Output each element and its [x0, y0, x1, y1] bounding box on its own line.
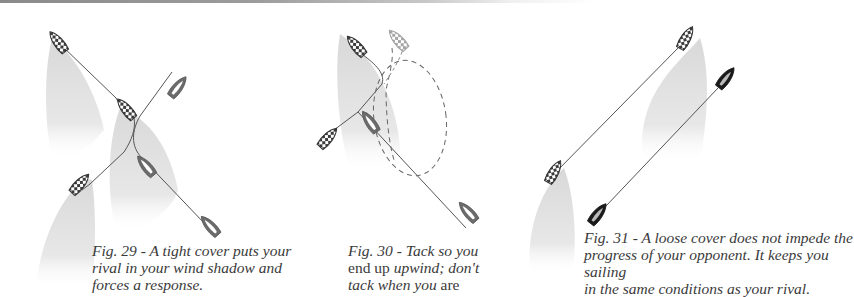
caption-line: progress of your opponent. It keeps you … [584, 246, 854, 280]
wind-shadow-shape [36, 178, 95, 289]
caption-line: rival in your wind shadow and [92, 259, 322, 276]
wind-shadow-shape [46, 38, 104, 160]
caption-italic-text: tack when you [348, 276, 437, 293]
figure-29-caption: Fig. 29 - A tight cover puts your rival … [92, 242, 322, 293]
figure-31-caption: Fig. 31 - A loose cover does not impede … [584, 229, 854, 297]
caption-italic-text: upwind; don't [394, 259, 480, 276]
caption-line: Fig. 29 - A tight cover puts your [92, 242, 322, 259]
caption-line: in the same conditions as your rival. [584, 280, 854, 297]
caption-upright-text: end up [348, 259, 394, 276]
grey-boat-icon [198, 213, 222, 238]
caption-upright-text: are [437, 276, 460, 293]
figure-30-caption: Fig. 30 - Tack so you end up upwind; don… [348, 242, 518, 293]
caption-line: forces a response. [92, 276, 322, 293]
grey-boat-icon [167, 74, 190, 100]
checkered-boat-icon [386, 27, 410, 52]
checkered-boat-icon [316, 125, 340, 150]
caption-line: Fig. 30 - Tack so you [348, 242, 518, 259]
wind-shadow-shape [642, 38, 707, 163]
figure-30 [316, 27, 479, 228]
black-boat-icon [715, 65, 738, 91]
caption-line: end up upwind; don't [348, 259, 518, 276]
black-boat-icon [587, 201, 610, 227]
caption-line: tack when you are [348, 276, 518, 293]
wind-shadow-shape [337, 34, 400, 173]
caption-line: Fig. 31 - A loose cover does not impede … [584, 229, 854, 246]
